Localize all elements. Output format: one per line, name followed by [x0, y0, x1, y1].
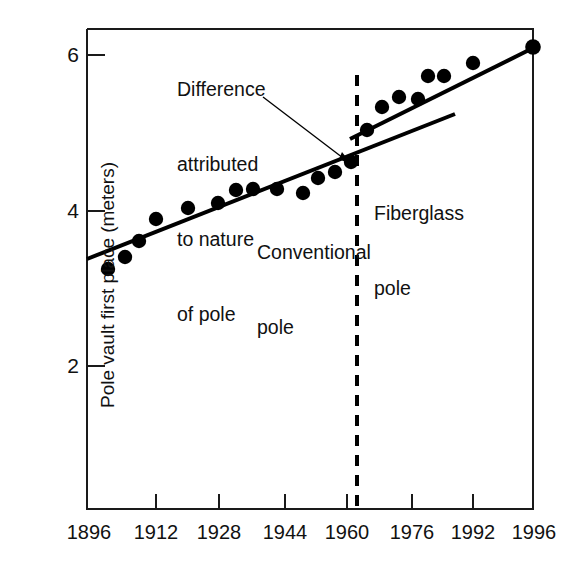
x-tick-label-1912: 1912: [134, 521, 179, 544]
x-tick-marks: [156, 494, 473, 509]
x-tick-label-1960: 1960: [325, 521, 370, 544]
annotation-conventional-line-1: Conventional: [257, 240, 371, 265]
difference-annotation-arrow: [263, 97, 352, 165]
data-point: [118, 250, 132, 264]
data-point: [525, 39, 541, 55]
data-point: [311, 171, 325, 185]
data-point: [421, 69, 435, 83]
x-tick-label-1944: 1944: [263, 521, 308, 544]
data-point: [411, 92, 425, 106]
x-tick-label-1992: 1992: [451, 521, 496, 544]
annotation-difference-line-2: attributed: [177, 152, 266, 177]
data-point: [437, 69, 451, 83]
annotation-difference-line-4: of pole: [177, 302, 266, 327]
data-point: [132, 234, 146, 248]
y-tick-label-6: 6: [67, 43, 79, 67]
x-tick-label-1976: 1976: [390, 521, 435, 544]
annotation-fiberglass-line-1: Fiberglass: [374, 201, 464, 226]
y-axis-label: Pole vault first place (meters): [97, 125, 119, 445]
annotation-conventional-line-2: pole: [257, 315, 371, 340]
data-point: [360, 123, 374, 137]
data-point: [392, 90, 406, 104]
data-point: [149, 212, 163, 226]
fiberglass-trend-line: [350, 46, 537, 139]
pole-vault-chart-figure: 6 4 2 1896 1912 1928 1944 1960 1976 1992…: [0, 0, 577, 580]
x-tick-label-1996: 1996: [512, 521, 557, 544]
y-tick-label-2: 2: [67, 354, 79, 378]
data-point: [375, 100, 389, 114]
annotation-fiberglass-line-2: pole: [374, 276, 464, 301]
annotation-difference-line-1: Difference: [177, 77, 266, 102]
y-tick-label-4: 4: [67, 199, 79, 223]
x-axis-tick-labels: 1896 1912 1928 1944 1960 1976 1992 1996: [0, 521, 577, 551]
annotation-conventional-pole: Conventional pole: [257, 190, 371, 390]
x-tick-label-1896: 1896: [67, 521, 112, 544]
data-point: [344, 155, 358, 169]
annotation-difference: Difference attributed to nature of pole: [177, 27, 266, 377]
data-point: [466, 56, 480, 70]
annotation-difference-line-3: to nature: [177, 227, 266, 252]
annotation-fiberglass-pole: Fiberglass pole: [374, 151, 464, 351]
data-point: [328, 165, 342, 179]
x-tick-label-1928: 1928: [197, 521, 242, 544]
